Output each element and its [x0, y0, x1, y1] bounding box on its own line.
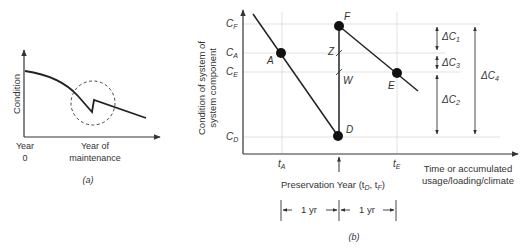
y-tick-cd: CD [226, 131, 238, 143]
interval-dimension [281, 200, 396, 221]
delta-c2-label: ΔC2 [441, 94, 460, 106]
interval-1-label: 1 yr [301, 204, 317, 215]
marker-w: W [343, 75, 354, 86]
delta-c4-label: ΔC4 [480, 70, 499, 82]
panel-b-y-label: Condition of system of [196, 41, 207, 135]
point-e-label: E [388, 80, 395, 91]
point-e [392, 68, 402, 78]
x-tick-ta: tA [278, 158, 286, 170]
panel-b-x-label-2: usage/loading/climate [422, 175, 514, 186]
pre-preservation-deterioration-line [253, 14, 338, 136]
point-d [333, 131, 343, 141]
panel-b-y-label-2: system component [207, 48, 218, 128]
preservation-year-label: Preservation Year (tD, tF) [281, 179, 385, 191]
panel-b-caption: (b) [349, 232, 360, 242]
y-tick-ca: CA [226, 47, 238, 59]
panel-b-x-label: Time or accumulated [424, 163, 512, 174]
panel-a-x-tick-year-0-num: 0 [22, 153, 27, 163]
panel-b: Condition of system of system component … [196, 10, 518, 242]
diagram-canvas: Condition Year 0 Year of maintenance (a)… [0, 0, 532, 252]
panel-a-caption: (a) [83, 175, 94, 185]
x-tick-te: tE [393, 158, 401, 170]
panel-a-y-label: Condition [11, 74, 22, 114]
y-tick-ce: CE [226, 66, 238, 78]
delta-c3-label: ΔC3 [441, 57, 460, 69]
panel-a-x-tick-year-0: Year [16, 141, 34, 151]
point-d-label: D [346, 124, 353, 135]
panel-b-gridlines [243, 12, 500, 154]
interval-2-label: 1 yr [359, 204, 375, 215]
marker-z: Z [327, 46, 335, 57]
point-f-label: F [344, 11, 351, 22]
panel-a-x-tick-maintenance: Year of [81, 141, 110, 151]
y-tick-cf: CF [226, 18, 238, 30]
point-a-label: A [266, 55, 274, 66]
delta-c1-label: ΔC1 [441, 31, 460, 43]
panel-a: Condition Year 0 Year of maintenance (a) [11, 50, 160, 185]
panel-a-condition-curve [25, 71, 146, 118]
point-a [276, 48, 286, 58]
panel-a-x-tick-maintenance-2: maintenance [69, 153, 121, 163]
point-f [334, 21, 344, 31]
